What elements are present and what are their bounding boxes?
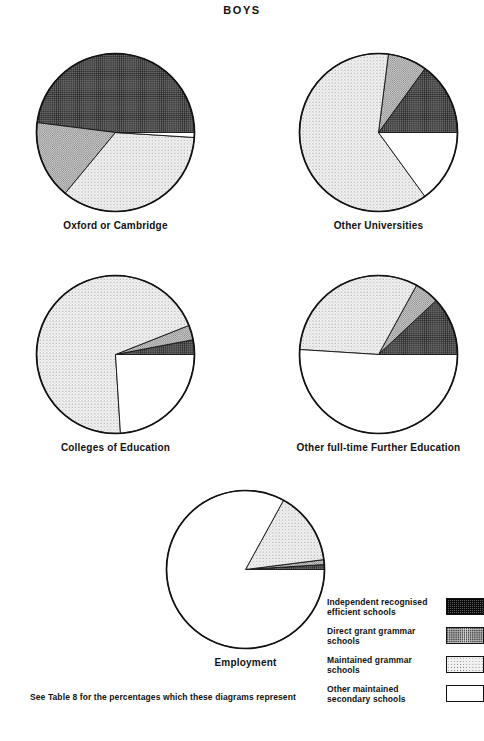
pie-chart-other-full-time-further-education: Other full-time Further Education [296,272,461,453]
legend-item-maintained-grammar: Maintained grammar schools [327,655,484,675]
pie-caption-2: Other Universities [296,220,461,231]
legend-item-direct-grant: Direct grant grammar schools [327,626,484,646]
figure-page: BOYS Oxford or Cambridge [0,0,484,741]
pie-svg-4 [296,272,461,437]
medium-dot-swatch [446,627,484,644]
pie-svg-3 [33,272,198,437]
footnote-text: See Table 8 for the percentages which th… [30,692,296,702]
white-swatch [446,685,484,702]
pie-caption-1: Oxford or Cambridge [33,220,198,231]
legend-label-independent: Independent recognised efficient schools [327,597,431,617]
legend-label-maintained-grammar: Maintained grammar schools [327,655,431,675]
pie-slice-white [116,355,195,434]
pie-chart-colleges-of-education: Colleges of Education [33,272,198,453]
pie-caption-3: Colleges of Education [33,442,198,453]
legend-label-other-maintained: Other maintained secondary schools [327,684,431,704]
pie-chart-employment: Employment [163,487,328,668]
dark-hatch-swatch [446,598,484,615]
light-dot-swatch [446,656,484,673]
legend-label-direct-grant: Direct grant grammar schools [327,626,431,646]
pie-svg-1 [33,50,198,215]
pie-caption-5: Employment [163,657,328,668]
legend-item-independent: Independent recognised efficient schools [327,597,484,617]
pie-chart-other-universities: Other Universities [296,50,461,231]
pie-svg-2 [296,50,461,215]
pie-slice-white [300,350,458,434]
legend: Independent recognised efficient schools… [327,597,484,713]
legend-item-other-maintained: Other maintained secondary schools [327,684,484,704]
pie-chart-oxford-or-cambridge: Oxford or Cambridge [33,50,198,231]
page-title: BOYS [0,4,484,16]
pie-svg-5 [163,487,328,652]
pie-slice-dark-hatch [37,53,194,132]
pie-caption-4: Other full-time Further Education [296,442,461,453]
